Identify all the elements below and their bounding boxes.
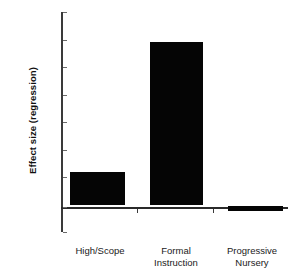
x-category-label-formal-instruction: Formal Instruction [138, 245, 214, 268]
bar-progressive-nursery [228, 206, 283, 211]
bar-high-scope [70, 172, 125, 205]
x-category-label-high-scope: High/Scope [62, 245, 138, 257]
x-tick-mark [213, 209, 214, 213]
plot-area: 0.7 0.6 0.5 0.4 0.3 0.2 0.1 0.0 -0.1 [61, 12, 288, 232]
y-tick-mark [63, 177, 67, 178]
bar-chart-figure: Effect size (regression) 0.7 0.6 0.5 0.4… [0, 0, 290, 275]
y-tick-mark [63, 95, 67, 96]
y-tick-mark [63, 150, 67, 151]
x-tick-mark [137, 209, 138, 213]
y-tick-mark [63, 232, 67, 233]
y-tick-mark [63, 12, 67, 13]
y-axis-title: Effect size (regression) [27, 26, 38, 216]
y-tick-mark [63, 67, 67, 68]
y-tick-mark [63, 122, 67, 123]
x-category-label-progressive-nursery: Progressive Nursery [214, 245, 290, 268]
bar-formal-instruction [150, 42, 203, 204]
y-tick-mark [63, 207, 67, 208]
y-tick-mark [63, 40, 67, 41]
